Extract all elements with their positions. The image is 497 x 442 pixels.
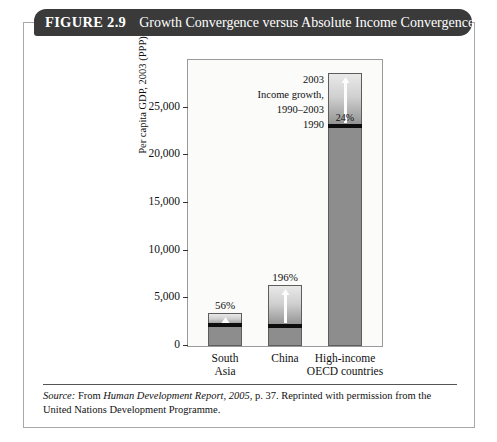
figure-container: FIGURE 2.9 Growth Convergence versus Abs… (23, 22, 475, 428)
x-axis-label-2: China (271, 352, 298, 365)
source-text-before: From (75, 390, 103, 401)
bar-divider-1990-line (208, 323, 242, 327)
y-axis-tick-label: 20,000 (148, 147, 180, 159)
bar-segment-income-1990 (328, 126, 362, 346)
figure-title-banner: FIGURE 2.9 Growth Convergence versus Abs… (34, 9, 472, 36)
source-work-title: Human Development Report, 2005 (103, 390, 249, 401)
x-axis-label-line: Asia (212, 365, 239, 378)
bar-south-asia[interactable] (208, 313, 242, 346)
y-axis-tick-label: 25,000 (148, 100, 180, 112)
source-label: Source: (43, 390, 75, 401)
source-divider (43, 384, 457, 385)
annotation-line-2003: 2003 (258, 72, 324, 87)
annotation-line-income-growth: Income growth, (258, 87, 324, 102)
y-axis-title: Per capita GDP, 2003 (PPP) (137, 0, 148, 210)
source-note: Source: From Human Development Report, 2… (43, 389, 461, 416)
y-axis-tick-label: 15,000 (148, 195, 180, 207)
bar-segment-income-growth (268, 285, 302, 325)
y-axis-tick-mark (183, 107, 188, 108)
figure-number: FIGURE 2.9 (45, 14, 126, 31)
bar-divider-1990-line (268, 324, 302, 328)
bar-china[interactable] (268, 285, 302, 346)
y-axis-tick-mark (183, 250, 188, 251)
y-axis-tick-mark (183, 202, 188, 203)
growth-arrow-shaft (284, 294, 287, 322)
y-axis-tick-mark (183, 154, 188, 155)
x-axis-label-3: High-incomeOECD countries (307, 352, 383, 378)
annotation-line-years: 1990–2003 (258, 102, 324, 117)
annotation-line-1990: 1990 (258, 117, 324, 132)
y-axis-tick-label: 0 (174, 338, 180, 350)
bar-divider-1990-line (328, 124, 362, 128)
y-axis-tick-mark (183, 297, 188, 298)
bar-segment-income-1990 (268, 326, 302, 346)
growth-percent-label: 56% (215, 299, 235, 311)
x-axis-label-line: High-income (307, 352, 383, 365)
figure-title: Growth Convergence versus Absolute Incom… (139, 15, 472, 31)
growth-arrow-icon (221, 317, 230, 322)
growth-annotation: 2003 Income growth, 1990–2003 1990 (258, 72, 324, 132)
growth-percent-label: 196% (272, 271, 298, 283)
y-axis-tick-mark (183, 345, 188, 346)
chart-plot-area: Per capita GDP, 2003 (PPP) 05,00010,0001… (187, 59, 383, 347)
x-axis-label-line: OECD countries (307, 365, 383, 378)
y-axis-tick-label: 10,000 (148, 243, 180, 255)
x-axis-label-1: SouthAsia (212, 352, 239, 378)
growth-percent-label: 24% (336, 112, 354, 123)
y-axis-tick-label: 5,000 (154, 290, 180, 302)
x-axis-label-line: South (212, 352, 239, 365)
x-axis-label-line: China (271, 352, 298, 365)
growth-arrow-icon (281, 289, 290, 322)
bar-segment-income-1990 (208, 325, 242, 346)
